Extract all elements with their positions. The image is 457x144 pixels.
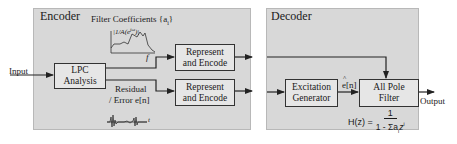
- ehat-label: ^ e[n]: [342, 80, 357, 90]
- decoder-title: Decoder: [271, 9, 312, 24]
- transfer-function-formula: H(z) = 1 1 - Σaizi: [348, 108, 405, 136]
- output-label: Output: [420, 96, 445, 106]
- represent-encode-bottom-box[interactable]: Represent and Encode: [175, 79, 235, 106]
- excitation-generator-box[interactable]: Excitation Generator: [285, 79, 338, 107]
- lpc-analysis-box[interactable]: LPC Analysis: [54, 63, 106, 89]
- represent-encode-top-box[interactable]: Represent and Encode: [175, 44, 235, 71]
- spectrum-label: |1/A(ejω)|: [113, 27, 139, 36]
- residual-label-line1: Residual: [115, 84, 147, 94]
- residual-label-line2: / Error e[n]: [109, 95, 149, 105]
- input-label: Input: [9, 66, 28, 76]
- encoder-title: Encoder: [40, 9, 80, 24]
- all-pole-filter-box[interactable]: All Pole Filter: [359, 79, 419, 107]
- filter-coefficients-label: Filter Coefficients {ai}: [91, 14, 173, 26]
- residual-axis-label: t: [148, 116, 150, 124]
- spectrum-axis-label: f: [146, 52, 149, 62]
